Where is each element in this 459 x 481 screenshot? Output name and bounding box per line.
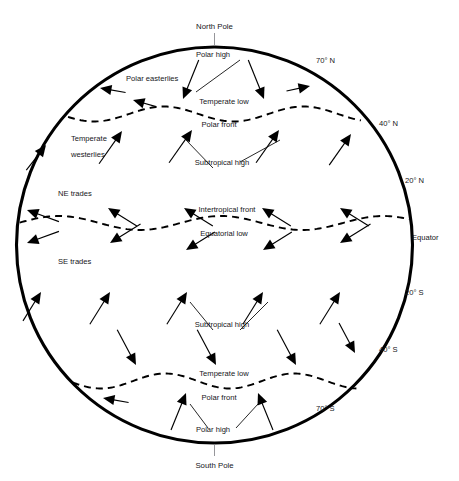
pressure-label-temperate-low-s: Temperate low bbox=[199, 369, 249, 378]
latitude-label-lat-20n: 20° N bbox=[405, 176, 424, 185]
pressure-label-subtropical-high-s: Subtropical high bbox=[195, 320, 249, 329]
latitude-label-lat-40n: 40° N bbox=[379, 119, 398, 128]
pressure-label-intertropical-front: Intertropical front bbox=[199, 205, 257, 214]
latitude-label-lat-20s: 20° S bbox=[405, 288, 424, 297]
wind-label-temperate-westerlies-line2: westerlies bbox=[70, 150, 105, 159]
wind-label-polar-easterlies-n: Polar easterlies bbox=[126, 74, 179, 83]
pressure-label-subtropical-high-n: Subtropical high bbox=[195, 158, 249, 167]
pressure-label-temperate-low-n: Temperate low bbox=[199, 97, 249, 106]
figure-canvas: North Pole South Pole 70° N40° N20° NEqu… bbox=[0, 0, 459, 481]
general-circulation-diagram: North Pole South Pole 70° N40° N20° NEqu… bbox=[0, 0, 459, 481]
wind-label-temperate-westerlies-line1: Temperate bbox=[71, 134, 107, 143]
latitude-label-lat-40s: 40° S bbox=[379, 345, 398, 354]
pressure-label-polar-front-s: Polar front bbox=[201, 393, 237, 402]
pressure-label-equatorial-low: Equatorial low bbox=[200, 229, 248, 238]
south-pole-label: South Pole bbox=[195, 461, 233, 470]
pressure-label-polar-high-s: Polar high bbox=[196, 425, 230, 434]
pressure-label-polar-high-n: Polar high bbox=[196, 50, 230, 59]
latitude-label-lat-eq: Equator bbox=[412, 233, 439, 242]
wind-label-ne-trades: NE trades bbox=[58, 189, 92, 198]
wind-label-se-trades: SE trades bbox=[58, 257, 92, 266]
pressure-label-polar-front-n: Polar front bbox=[201, 120, 237, 129]
latitude-label-lat-70n: 70° N bbox=[316, 56, 335, 65]
north-pole-label: North Pole bbox=[196, 22, 233, 31]
latitude-label-lat-70s: 70° S bbox=[316, 404, 335, 413]
